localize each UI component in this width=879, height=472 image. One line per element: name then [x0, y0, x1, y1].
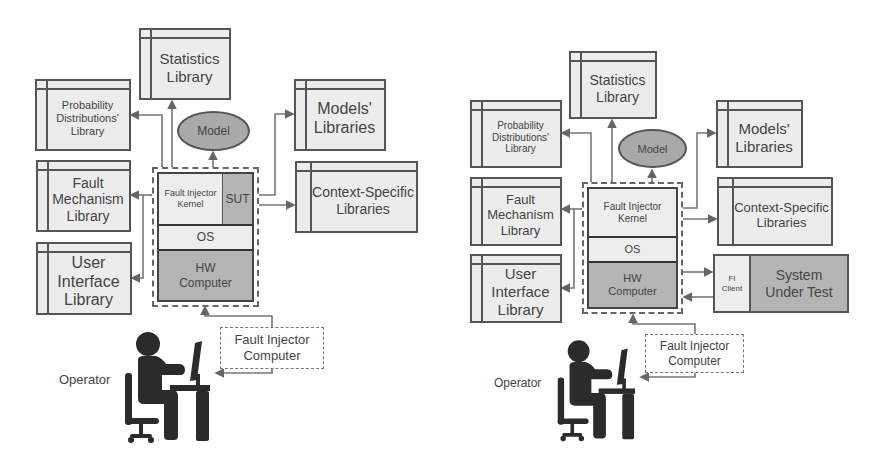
operator-label: Operator — [59, 372, 110, 387]
models-libraries-label: Models' Libraries — [729, 111, 799, 164]
context-specific-libraries-box: Context-Specific Libraries — [295, 161, 418, 233]
statistics-library-label: Statistics Library — [582, 62, 653, 115]
probability-library-label: Probability Distributions' Library — [483, 111, 558, 164]
user-interface-library-box: User Interface Library — [470, 254, 562, 323]
os-cell: OS — [159, 224, 252, 251]
system-under-test-cell: System Under Test — [751, 256, 847, 311]
fault-mechanism-library-label: Fault Mechanism Library — [49, 171, 127, 228]
context-specific-libraries-label: Context-Specific Libraries — [734, 188, 829, 242]
fault-mechanism-library-label: Fault Mechanism Library — [483, 188, 558, 242]
fi-client-cell: FI Client — [715, 256, 751, 311]
models-libraries-box: Models' Libraries — [294, 79, 386, 151]
fault-mechanism-library-box: Fault Mechanism Library — [36, 160, 131, 232]
operator-at-desk-icon — [122, 330, 232, 450]
user-interface-library-label: User Interface Library — [49, 253, 128, 311]
user-interface-library-label: User Interface Library — [483, 265, 558, 319]
operator-at-desk-icon — [555, 338, 655, 448]
fault-injector-computer-box: Fault Injector Computer — [645, 334, 744, 373]
model-label: Model — [638, 143, 668, 155]
model-ellipse: Model — [177, 111, 250, 151]
fault-injector-stack: Fault Injector Kernel OS HW Computer — [582, 182, 683, 314]
statistics-library-box: Statistics Library — [569, 51, 657, 119]
probability-distributions-library-box: Probability Distributions' Library — [35, 79, 131, 151]
fault-injector-computer-box: Fault Injector Computer — [220, 327, 324, 369]
fi-kernel-cell: Fault Injector Kernel — [159, 174, 223, 224]
operator-label: Operator — [494, 376, 541, 390]
sut-cell: SUT — [223, 174, 252, 224]
fault-mechanism-library-box: Fault Mechanism Library — [470, 177, 562, 246]
hw-computer-cell: HW Computer — [589, 263, 676, 307]
fault-injector-stack: Fault Injector Kernel SUT OS HW Computer — [152, 167, 259, 307]
models-libraries-box: Models' Libraries — [716, 100, 803, 168]
probability-distributions-library-box: Probability Distributions' Library — [470, 100, 562, 168]
os-cell: OS — [589, 236, 676, 263]
model-label: Model — [197, 124, 230, 138]
hw-computer-cell: HW Computer — [159, 251, 252, 300]
context-specific-libraries-label: Context-Specific Libraries — [312, 172, 414, 229]
system-under-test-box: FI Client System Under Test — [713, 254, 849, 313]
model-ellipse: Model — [618, 129, 687, 168]
statistics-library-label: Statistics Library — [152, 39, 227, 96]
statistics-library-box: Statistics Library — [139, 28, 231, 100]
models-libraries-label: Models' Libraries — [307, 90, 382, 147]
user-interface-library-box: User Interface Library — [36, 242, 132, 315]
probability-library-label: Probability Distributions' Library — [48, 90, 127, 147]
context-specific-libraries-box: Context-Specific Libraries — [717, 177, 833, 246]
fi-kernel-cell: Fault Injector Kernel — [589, 189, 676, 236]
